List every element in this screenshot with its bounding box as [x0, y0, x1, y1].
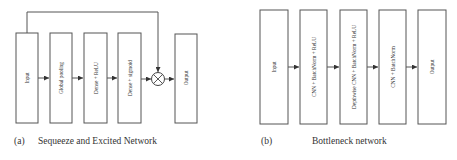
- block-label: Output: [183, 70, 189, 85]
- block-label: Output: [429, 59, 435, 74]
- block-dense-relu: Dense + ReLU: [84, 33, 107, 123]
- block-label: CNN + BatchNorm: [390, 45, 396, 87]
- architecture-diagram: Input Global pooling Dense + ReLU Dense …: [0, 0, 457, 160]
- block-output-b: Output: [418, 10, 446, 124]
- block-label: Depthwise CNN + BatchNorm + ReLU: [351, 25, 357, 109]
- block-input-a: Input: [16, 33, 38, 123]
- panel-a-squeeze-excite: Input Global pooling Dense + ReLU Dense …: [14, 12, 197, 147]
- block-cnn-batchnorm: CNN + BatchNorm: [379, 10, 406, 124]
- block-dense-sigmoid: Dense + sigmoid: [118, 33, 141, 123]
- block-global-pooling: Global pooling: [50, 33, 72, 123]
- multiply-circle-icon: [152, 73, 165, 86]
- block-label: CNN + BatchNorm + ReLU: [311, 37, 317, 97]
- caption-title-a: Sequeeze and Excited Network: [38, 136, 157, 146]
- block-label: Input: [271, 61, 277, 73]
- block-label: Input: [24, 72, 30, 84]
- panel-b-bottleneck: Input CNN + BatchNorm + ReLU Depthwise C…: [260, 10, 446, 147]
- block-label: Dense + ReLU: [93, 62, 99, 94]
- block-depthwise-cnn-batchnorm-relu: Depthwise CNN + BatchNorm + ReLU: [340, 10, 367, 124]
- block-cnn-batchnorm-relu: CNN + BatchNorm + ReLU: [300, 10, 327, 124]
- caption-title-b: Bottleneck network: [312, 136, 387, 146]
- block-label: Global pooling: [58, 62, 64, 94]
- block-input-b: Input: [260, 10, 288, 124]
- block-output-a: Output: [175, 34, 197, 123]
- caption-tag-a: (a): [14, 136, 25, 147]
- block-label: Dense + sigmoid: [127, 60, 133, 96]
- caption-tag-b: (b): [261, 136, 272, 147]
